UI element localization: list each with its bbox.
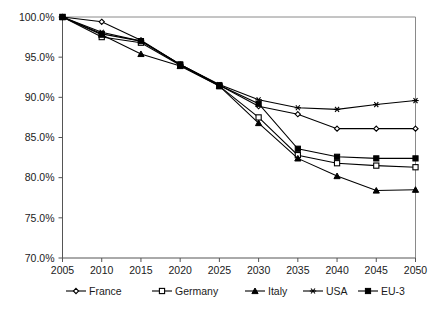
data-point-marker [217,83,222,88]
legend-label: USA [326,285,348,297]
y-tick-label: 95.0% [25,51,55,63]
data-point-marker [256,101,261,106]
y-tick-label: 70.0% [25,252,55,264]
data-point-marker [374,156,379,161]
line-chart: 70.0%75.0%80.0%85.0%90.0%95.0%100.0% 200… [0,0,431,311]
x-tick-label: 2005 [51,264,75,276]
legend-marker-icon [159,288,164,293]
x-tick-label: 2045 [365,264,389,276]
x-tick-label: 2010 [90,264,114,276]
y-tick-label: 85.0% [25,131,55,143]
legend-label: Italy [268,285,288,297]
data-point-marker [295,146,300,151]
data-point-marker [413,165,418,170]
legend-marker-icon [365,288,370,293]
y-tick-label: 80.0% [25,171,55,183]
y-tick-label: 100.0% [19,11,55,23]
y-tick-label: 75.0% [25,212,55,224]
legend-label: France [89,285,122,297]
x-tick-label: 2035 [286,264,310,276]
legend-label: EU-3 [381,285,405,297]
data-point-marker [178,62,183,67]
data-point-marker [413,156,418,161]
x-tick-label: 2030 [247,264,271,276]
x-tick-label: 2015 [129,264,153,276]
data-point-marker [334,154,339,159]
x-tick-label: 2050 [404,264,428,276]
y-tick-label: 90.0% [25,91,55,103]
x-tick-label: 2040 [325,264,349,276]
x-tick-label: 2020 [168,264,192,276]
data-point-marker [334,161,339,166]
x-tick-label: 2025 [208,264,232,276]
data-point-marker [138,39,143,44]
data-point-marker [99,31,104,36]
data-point-marker [374,163,379,168]
chart-canvas: 70.0%75.0%80.0%85.0%90.0%95.0%100.0% 200… [0,0,431,311]
legend-label: Germany [175,285,219,297]
data-point-marker [60,14,65,19]
